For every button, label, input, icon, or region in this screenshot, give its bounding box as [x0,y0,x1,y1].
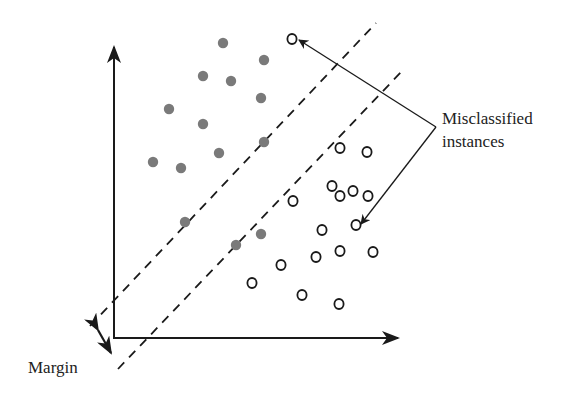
open-point [335,143,344,153]
filled-point [198,119,208,129]
filled-point [214,148,224,158]
open-point [334,299,343,309]
filled-point [259,55,269,65]
class-b-points [247,34,377,309]
open-point [276,260,285,270]
filled-point [164,104,174,114]
filled-point [218,38,228,48]
open-point [335,191,344,201]
margin-boundary-upper [90,23,376,326]
filled-point [256,93,266,103]
open-point [335,246,344,256]
filled-point [231,240,241,250]
open-point [311,252,320,262]
open-point [327,181,336,191]
misclassified-label-line2: instances [442,132,504,151]
open-point [287,34,296,44]
filled-point [256,229,266,239]
margin-double-arrow [98,330,111,353]
open-point [368,247,377,257]
open-point [288,196,297,206]
misclassified-arrow-bottom [361,127,436,224]
open-point [362,147,371,157]
misclassified-label-line1: Misclassified [442,109,533,128]
open-point [363,191,372,201]
open-point [297,290,306,300]
margin-boundary-lower [118,69,404,369]
open-point [348,186,357,196]
open-point [317,225,326,235]
filled-point [259,137,269,147]
filled-point [226,76,236,86]
filled-point [176,163,186,173]
filled-point [198,71,208,81]
margin-label: Margin [28,358,78,377]
filled-point [180,217,190,227]
class-a-points [148,38,269,250]
open-point [351,220,360,230]
filled-point [148,157,158,167]
svm-margin-diagram: Misclassified instances Margin [0,0,583,396]
misclassified-arrow-top [299,40,436,127]
open-point [247,278,256,288]
